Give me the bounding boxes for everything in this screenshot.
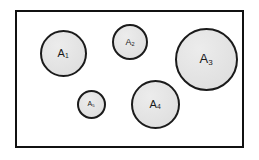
circle-a3-label: A3 xyxy=(199,52,212,65)
diagram-canvas: A1 A2 A3 A4 A5 xyxy=(0,0,259,160)
circle-a2: A2 xyxy=(112,24,148,60)
circle-a4-label: A4 xyxy=(149,99,160,110)
circle-a2-label: A2 xyxy=(125,38,134,47)
circle-a4: A4 xyxy=(131,80,180,129)
circle-a3: A3 xyxy=(175,28,238,91)
circle-a1: A1 xyxy=(40,30,87,77)
circle-a5: A5 xyxy=(77,90,106,119)
circle-a1-label: A1 xyxy=(57,48,68,59)
circle-a5-label: A5 xyxy=(87,100,94,107)
